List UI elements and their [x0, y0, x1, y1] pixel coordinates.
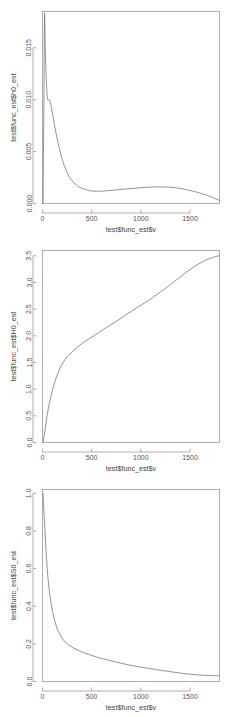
y-tick-label: 0.010 — [26, 91, 33, 109]
y-tick-label: 2.5 — [26, 304, 33, 314]
plot-svg: 0500100015000.00.51.01.52.02.53.03.5test… — [0, 239, 238, 478]
y-tick-label: 0.005 — [26, 143, 33, 161]
y-axis-title: test$func_est$S0_est — [9, 551, 18, 620]
x-tick-label: 500 — [86, 454, 98, 461]
y-tick-label: 0.0 — [26, 438, 33, 448]
x-axis-title: test$func_est$v — [106, 703, 157, 712]
y-tick-label: 1.0 — [26, 384, 33, 394]
plot-svg: 0500100015000.00.20.40.60.81.0test$func_… — [0, 478, 238, 717]
x-tick-label: 1000 — [133, 693, 149, 700]
y-tick-label: 0.5 — [26, 411, 33, 421]
x-tick-label: 1000 — [133, 454, 149, 461]
data-curve — [43, 493, 220, 676]
y-tick-label: 0.015 — [26, 39, 33, 57]
plot-panel-H0: 0500100015000.00.51.01.52.02.53.03.5test… — [0, 239, 238, 478]
y-tick-label: 0.4 — [26, 601, 33, 611]
x-tick-label: 0 — [41, 693, 45, 700]
x-tick-label: 1500 — [182, 454, 198, 461]
x-axis-title: test$func_est$v — [106, 225, 157, 234]
data-curve — [43, 13, 220, 204]
x-tick-label: 1500 — [182, 693, 198, 700]
y-tick-label: 0.8 — [26, 526, 33, 536]
plot-frame — [43, 12, 220, 204]
x-tick-label: 500 — [86, 693, 98, 700]
x-tick-label: 1500 — [182, 215, 198, 222]
y-axis-title: test$func_est$h0_est — [9, 73, 18, 141]
y-tick-label: 3.0 — [26, 278, 33, 288]
x-tick-label: 0 — [41, 215, 45, 222]
data-curve — [43, 256, 220, 443]
y-tick-label: 2.0 — [26, 331, 33, 341]
x-tick-label: 500 — [86, 215, 98, 222]
plot-frame — [43, 490, 220, 682]
plot-svg: 0500100015000.0000.0050.0100.015test$fun… — [0, 0, 238, 239]
y-tick-label: 0.6 — [26, 564, 33, 574]
plot-panel-S0: 0500100015000.00.20.40.60.81.0test$func_… — [0, 478, 238, 717]
y-tick-label: 1.5 — [26, 358, 33, 368]
y-tick-label: 1.0 — [26, 488, 33, 498]
x-axis-title: test$func_est$v — [106, 464, 157, 473]
plot-panel-h0: 0500100015000.0000.0050.0100.015test$fun… — [0, 0, 238, 239]
y-tick-label: 0.0 — [26, 677, 33, 687]
y-axis-title: test$func_est$H0_est — [9, 312, 18, 382]
x-tick-label: 1000 — [133, 215, 149, 222]
plot-frame — [43, 251, 220, 443]
y-tick-label: 3.5 — [26, 251, 33, 261]
x-tick-label: 0 — [41, 454, 45, 461]
r-plot-figure: 0500100015000.0000.0050.0100.015test$fun… — [0, 0, 238, 717]
y-tick-label: 0.000 — [26, 195, 33, 213]
y-tick-label: 0.2 — [26, 639, 33, 649]
